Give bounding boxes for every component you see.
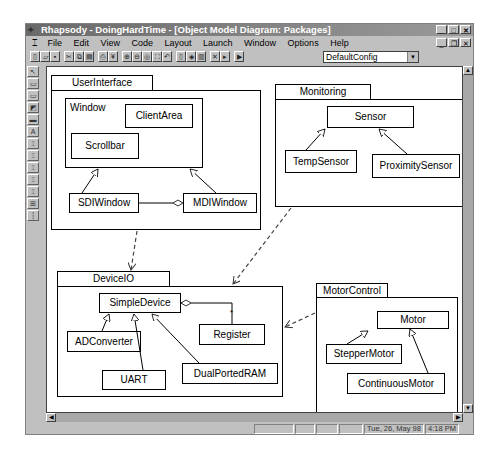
properties-icon[interactable]: ¥ [108,51,118,62]
aggregation-diamond [173,200,183,206]
maximize-button[interactable]: □ [448,25,459,34]
inheritance-mdiwindow-window [190,169,216,193]
aggregation-icon[interactable]: ⌶ [27,162,39,173]
mdi-controls: _ ❐ ✕ [436,38,471,47]
inheritance-icon[interactable]: A [27,126,39,137]
menu-view[interactable]: View [101,37,120,49]
status-pane-1 [254,424,294,434]
status-time: 4:18 PM [425,424,459,434]
zoom-full-icon[interactable]: ⛶ [152,51,162,62]
menu-help[interactable]: Help [330,37,349,49]
dependency-icon[interactable]: ⌶ [27,186,39,197]
status-bar: Tue, 26, May 98 4:18 PM [26,423,473,435]
status-pane-3 [316,424,338,434]
generate-icon[interactable]: ▯ [176,51,186,62]
title-bar[interactable]: ✦Rhapsody - DoingHardTime - [Object Mode… [26,24,473,36]
menu-code[interactable]: Code [131,37,153,49]
status-pane-2 [295,424,315,434]
paste-icon[interactable]: ▤ [84,51,94,62]
horizontal-scrollbar[interactable]: ◀ ▶ [46,413,463,422]
window-controls: _ □ ✕ [436,25,471,34]
close-button[interactable]: ✕ [460,25,471,34]
menu-launch[interactable]: Launch [203,37,233,49]
dependency-userinterface-deviceio [131,231,137,270]
rhapsody-window: ✦Rhapsody - DoingHardTime - [Object Mode… [25,23,474,435]
composite-class-icon[interactable]: ▬ [27,114,39,125]
drawing-palette: ↖ ▭ ▭ ◩ ▬ A ⌶ ⌶ ⌶ ⌶ ⌶ ⊞ ┆ [27,66,41,226]
diagram-canvas[interactable]: UserInterface Window ClientArea Scrollba… [46,66,463,413]
new-icon[interactable]: ▯ [30,51,40,62]
zoom-in-icon[interactable]: ⊕ [122,51,132,62]
print-icon[interactable]: ⎙ [98,51,108,62]
status-date: Tue, 26, May 98 [364,424,424,434]
app-icon: ✦ [27,24,39,34]
zoom-out-icon[interactable]: ⊖ [132,51,142,62]
select-arrow-icon[interactable]: ↖ [27,66,39,77]
window-title: Rhapsody - DoingHardTime - [Object Model… [41,24,331,35]
association-icon[interactable]: ⌶ [27,138,39,149]
toolbar: ▯ ▱ ▪ ✂ ⧉ ▤ ⎙ ¥ ⊕ ⊖ ◎ ⛶ ↶ ▯ ◈ ▥ ✕ ▸ ▶ De… [26,50,473,64]
class-icon[interactable]: ▭ [27,78,39,89]
relationship-lines [47,67,463,413]
dependency-motorcontrol-deviceio [285,313,315,327]
dependency-monitoring-deviceio [233,208,291,284]
save-icon[interactable]: ▪ [50,51,60,62]
object-icon[interactable]: ◩ [27,102,39,113]
scroll-right-icon[interactable]: ▶ [453,413,463,422]
scroll-up-icon[interactable]: ▲ [463,66,473,75]
mdi-restore-button[interactable]: ❐ [448,38,459,47]
build-icon[interactable]: ▥ [196,51,206,62]
stop-icon[interactable]: ✕ [210,51,220,62]
config-combo-value: DefaultConfig [326,52,378,62]
mdi-minimize-button[interactable]: _ [436,38,447,47]
menu-window[interactable]: Window [244,37,276,49]
status-pane-4 [339,424,363,434]
scroll-left-icon[interactable]: ◀ [46,413,56,422]
open-icon[interactable]: ▱ [40,51,50,62]
scroll-down-icon[interactable]: ▼ [463,404,473,413]
config-combo[interactable]: DefaultConfig ▼ [323,51,419,63]
menu-bar: ⌶ File Edit View Code Layout Launch Wind… [26,37,473,49]
menu-layout[interactable]: Layout [164,37,191,49]
zoom-fit-icon[interactable]: ◎ [142,51,152,62]
edit-code-icon[interactable]: ◈ [186,51,196,62]
copy-icon[interactable]: ⧉ [74,51,84,62]
document-icon[interactable]: ⌶ [28,37,40,49]
zoom-undo-icon[interactable]: ↶ [162,51,172,62]
composition-icon[interactable]: ⌶ [27,174,39,185]
vertical-scrollbar[interactable]: ▲ ▼ [463,66,473,413]
directed-association-icon[interactable]: ⌶ [27,150,39,161]
mdi-close-button[interactable]: ✕ [460,38,471,47]
note-icon[interactable]: ┆ [27,210,39,221]
animate-icon[interactable]: ▶ [234,51,244,62]
minimize-button[interactable]: _ [436,25,447,34]
package-icon[interactable]: ▭ [27,90,39,101]
run-icon[interactable]: ▸ [220,51,230,62]
menu-options[interactable]: Options [288,37,319,49]
chevron-down-icon[interactable]: ▼ [407,52,418,62]
inheritance-sdiwindow-window [82,169,98,193]
menu-edit[interactable]: Edit [74,37,90,49]
menu-file[interactable]: File [48,37,63,49]
cut-icon[interactable]: ✂ [64,51,74,62]
link-icon[interactable]: ⊞ [27,198,39,209]
